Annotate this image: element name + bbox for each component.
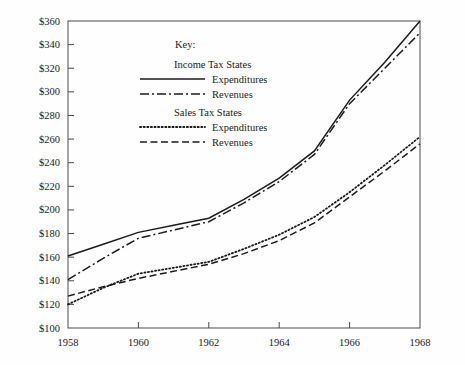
y-axis-tick-label: $160 <box>39 252 60 263</box>
legend-entry-label: Revenues <box>212 89 253 100</box>
y-axis-tick-label: $220 <box>39 181 60 192</box>
legend-group-label: Sales Tax States <box>174 107 242 118</box>
x-axis-tick-label: 1966 <box>339 337 360 348</box>
y-axis-tick-label: $240 <box>39 157 60 168</box>
legend-entry-label: Expenditures <box>212 74 267 85</box>
y-axis-tick-label: $280 <box>39 110 60 121</box>
legend-title: Key: <box>175 39 195 50</box>
x-axis-tick-label: 1960 <box>128 337 149 348</box>
y-axis-tick-label: $100 <box>39 323 60 334</box>
legend-entry-label: Expenditures <box>212 122 267 133</box>
x-axis-tick-label: 1958 <box>58 337 79 348</box>
y-axis-tick-label: $340 <box>39 39 60 50</box>
y-axis-tick-label: $320 <box>39 63 60 74</box>
legend-group-label: Income Tax States <box>174 59 251 70</box>
y-axis-tick-label: $180 <box>39 228 60 239</box>
legend-entry-label: Revenues <box>212 137 253 148</box>
y-axis-tick-label: $300 <box>39 86 60 97</box>
line-chart: $100$120$140$160$180$200$220$240$260$280… <box>0 0 465 365</box>
x-axis-tick-label: 1964 <box>269 337 291 348</box>
x-axis-tick-label: 1968 <box>410 337 431 348</box>
y-axis-tick-label: $260 <box>39 134 60 145</box>
series-line <box>68 137 420 305</box>
y-axis-tick-label: $200 <box>39 204 60 215</box>
y-axis-tick-label: $140 <box>39 275 60 286</box>
x-axis-tick-label: 1962 <box>198 337 219 348</box>
chart-container: $100$120$140$160$180$200$220$240$260$280… <box>0 0 465 365</box>
y-axis-tick-label: $360 <box>39 16 60 27</box>
series-line <box>68 144 420 296</box>
y-axis-tick-label: $120 <box>39 299 60 310</box>
